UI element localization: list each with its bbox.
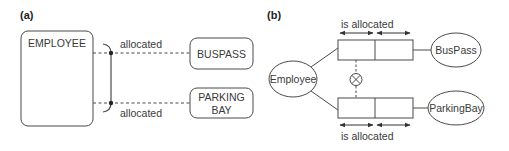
panel-b-label: (b) <box>267 9 281 21</box>
entity-buspass-ellipse: BusPass <box>431 33 481 67</box>
entity-buspass-label: BUSPASS <box>197 48 246 60</box>
arc-junction-dot <box>109 51 113 55</box>
relation-label-top-b: is allocated <box>341 18 394 30</box>
entity-parkingbay-label-line2: BAY <box>211 104 231 116</box>
relation-label-bottom-b: is allocated <box>341 130 394 142</box>
panel-b: (b) Employee is allocated is allocated <box>267 9 484 142</box>
entity-parkingbay-ellipse: ParkingBay <box>428 91 484 125</box>
exclusion-constraint <box>350 60 362 98</box>
panel-a: (a) EMPLOYEE allocated allocated BUSPASS… <box>20 9 253 126</box>
arc-junction-dot <box>109 101 113 105</box>
entity-parkingbay-label-b: ParkingBay <box>429 102 483 114</box>
relation-top-b: is allocated <box>338 18 413 60</box>
entity-employee-label: EMPLOYEE <box>28 37 86 49</box>
entity-employee-ellipse: Employee <box>269 61 317 97</box>
connector-employee-bottom <box>311 91 338 110</box>
panel-a-label: (a) <box>20 9 34 21</box>
entity-employee-label-b: Employee <box>270 73 317 85</box>
entity-parkingbay-box: PARKING BAY <box>190 88 253 118</box>
entity-buspass-label-b: BusPass <box>435 44 476 56</box>
connector-employee-top <box>311 48 338 67</box>
exclusion-x-icon <box>350 74 362 86</box>
relation-label-bottom: allocated <box>120 107 162 119</box>
entity-parkingbay-label-line1: PARKING <box>198 91 244 103</box>
relation-bottom-b: is allocated <box>338 98 413 142</box>
diagram-canvas: (a) EMPLOYEE allocated allocated BUSPASS… <box>0 0 509 151</box>
relation-label-top: allocated <box>120 38 162 50</box>
exclusive-arc <box>103 44 113 112</box>
entity-buspass-box: BUSPASS <box>190 38 253 69</box>
entity-employee-box: EMPLOYEE <box>21 31 93 126</box>
